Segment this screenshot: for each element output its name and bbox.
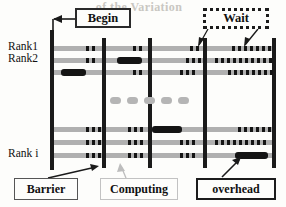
callout-wait[interactable]: Wait — [203, 8, 269, 29]
ellipsis-row-0 — [110, 97, 195, 104]
wait-dot — [186, 153, 189, 158]
wait-dot — [180, 140, 183, 145]
wait-dot — [239, 58, 242, 63]
wait-dots-rank-n1-16 — [215, 140, 269, 145]
wait-dot — [86, 153, 89, 158]
wait-dots-rank1-3 — [232, 46, 274, 51]
wait-dots-rank-n1-14 — [128, 140, 146, 145]
begin-leader — [53, 15, 75, 34]
wait-dots-rank-i-18 — [128, 153, 146, 158]
wait-dot — [92, 58, 95, 63]
wait-dot — [92, 140, 95, 145]
rank-label-1: Rank1 — [8, 40, 38, 52]
wait-dots-rank2-6 — [215, 58, 275, 63]
wait-dot — [98, 127, 101, 132]
callout-begin[interactable]: Begin — [75, 8, 131, 28]
wait-dot — [233, 58, 236, 63]
rank-label-2: Rank2 — [8, 52, 38, 64]
wait-dot — [86, 140, 89, 145]
wait-dot — [264, 70, 267, 75]
wait-dots-rank-i-17 — [86, 153, 104, 158]
barrier-line-1 — [102, 38, 106, 168]
wait-dot — [140, 127, 143, 132]
wait-dot — [232, 46, 235, 51]
wait-dot — [139, 46, 142, 51]
wait-dot — [251, 140, 254, 145]
callout-barrier[interactable]: Barrier — [14, 178, 78, 200]
wait-dot — [263, 58, 266, 63]
wait-dot — [86, 58, 89, 63]
wait-dot — [246, 70, 249, 75]
wait-dot — [227, 58, 230, 63]
wait-dots-rank2-4 — [86, 58, 98, 63]
wait-dot — [245, 58, 248, 63]
wait-dot — [268, 127, 271, 132]
wait-dot — [98, 153, 101, 158]
callout-overhead[interactable]: overhead — [196, 178, 276, 200]
wait-dot — [239, 140, 242, 145]
wait-dots-rank-n2-11 — [128, 127, 146, 132]
wait-dot — [234, 70, 237, 75]
wait-dot — [128, 140, 131, 145]
wait-dot — [257, 58, 260, 63]
wait-dot — [133, 70, 136, 75]
wait-dot — [139, 70, 142, 75]
overhead-bar-rank2 — [117, 57, 142, 64]
wait-dots-rank3-9 — [228, 70, 276, 75]
wait-dot — [262, 46, 265, 51]
wait-dots-rank-n2-12 — [238, 127, 274, 132]
wait-dot — [134, 127, 137, 132]
wait-dots-rank3-8 — [180, 70, 198, 75]
overhead-bar-rank-i — [235, 152, 268, 159]
callout-computing[interactable]: Computing — [100, 178, 178, 200]
wait-dot — [257, 140, 260, 145]
wait-dot — [258, 70, 261, 75]
wait-dot — [192, 70, 195, 75]
rank-label-i: Rank i — [8, 147, 38, 159]
wait-dot — [221, 140, 224, 145]
wait-dot — [140, 153, 143, 158]
ellipsis-dot — [110, 97, 121, 104]
wait-dots-rank1-1 — [133, 46, 145, 51]
wait-dot — [228, 70, 231, 75]
barrier-leader — [48, 164, 99, 178]
wait-dot — [251, 58, 254, 63]
wait-dot — [245, 140, 248, 145]
wait-dot — [233, 140, 236, 145]
wait-dot — [180, 153, 183, 158]
wait-dot — [244, 46, 247, 51]
wait-dot — [134, 153, 137, 158]
wait-dot — [196, 46, 199, 51]
wait-dot — [180, 70, 183, 75]
wait-dots-rank1-2 — [190, 46, 202, 51]
wait-dot — [134, 140, 137, 145]
wait-dot — [140, 140, 143, 145]
wait-dots-rank2-5 — [186, 58, 204, 63]
wait-leader-right — [244, 29, 258, 47]
overhead-bar-rank3 — [61, 69, 86, 76]
wait-dot — [240, 70, 243, 75]
wait-dot — [186, 140, 189, 145]
wait-dot — [263, 140, 266, 145]
wait-dots-rank-n1-15 — [180, 140, 198, 145]
wait-dot — [128, 127, 131, 132]
wait-dot — [268, 46, 271, 51]
figure-canvas:  of the Variation Rank1 Rank2 Rank i — [0, 0, 286, 207]
wait-dot — [98, 140, 101, 145]
ellipsis-dot — [144, 97, 155, 104]
wait-dots-rank-i-19 — [180, 153, 198, 158]
wait-dot — [86, 46, 89, 51]
wait-dot — [215, 58, 218, 63]
wait-dot — [128, 153, 131, 158]
wait-dot — [221, 58, 224, 63]
wait-dot — [192, 58, 195, 63]
wait-dot — [227, 140, 230, 145]
wait-dots-rank-n2-10 — [86, 127, 104, 132]
wait-dots-rank3-7 — [133, 70, 145, 75]
wait-dot — [238, 46, 241, 51]
barrier-line-0 — [50, 30, 54, 170]
wait-dot — [250, 46, 253, 51]
wait-dot — [186, 58, 189, 63]
wait-dot — [238, 127, 241, 132]
wait-dot — [256, 127, 259, 132]
